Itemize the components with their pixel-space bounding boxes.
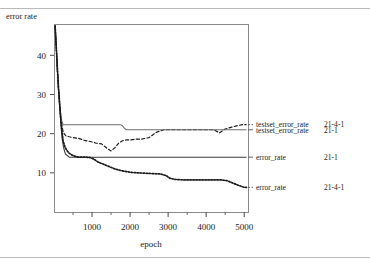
- legend-model-3: 21-1: [324, 153, 338, 162]
- legend-model-2: 21-1: [324, 126, 338, 135]
- y-tick-label: 20: [37, 129, 47, 139]
- y-tick-label: 10: [37, 168, 47, 178]
- plot-frame: [55, 25, 249, 213]
- y-tick-label: 30: [37, 90, 47, 100]
- series-line-4: [55, 26, 246, 187]
- legend-label-2: testset_error_rate: [256, 126, 309, 135]
- series-line-3: [55, 26, 246, 157]
- y-axis-label: error rate: [6, 12, 37, 21]
- data-series-layer: [55, 26, 246, 187]
- x-tick-label: 1000: [83, 222, 102, 232]
- series-line-2: [55, 26, 246, 130]
- legend-label-3: error_rate: [256, 153, 287, 162]
- tick-marks: [50, 55, 244, 217]
- y-tick-label: 40: [37, 51, 47, 61]
- x-tick-label: 4000: [197, 222, 216, 232]
- x-tick-label: 5000: [235, 222, 254, 232]
- x-tick-label: 3000: [159, 222, 178, 232]
- legend: testset_error_rate21-4-1testset_error_ra…: [256, 120, 344, 192]
- legend-model-4: 21-4-1: [324, 183, 344, 192]
- chart-canvas: error rate1020304010002000300040005000ep…: [0, 0, 370, 266]
- x-axis-label: epoch: [140, 239, 162, 249]
- figure-container: error rate1020304010002000300040005000ep…: [0, 0, 370, 266]
- x-tick-label: 2000: [121, 222, 140, 232]
- plot-box: [55, 25, 249, 213]
- legend-label-4: error_rate: [256, 183, 287, 192]
- series-line-1: [55, 26, 246, 151]
